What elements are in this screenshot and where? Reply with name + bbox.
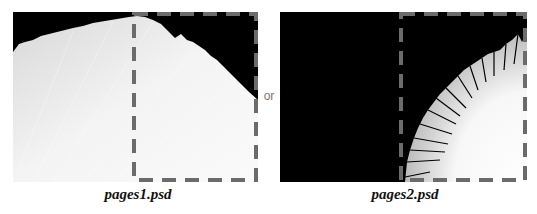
separator-text: or [259, 89, 279, 103]
crop-region-frame [132, 12, 258, 182]
crop-region-frame [399, 12, 527, 182]
pages2-caption: pages2.psd [325, 186, 485, 203]
pages1-caption: pages1.psd [58, 186, 218, 203]
